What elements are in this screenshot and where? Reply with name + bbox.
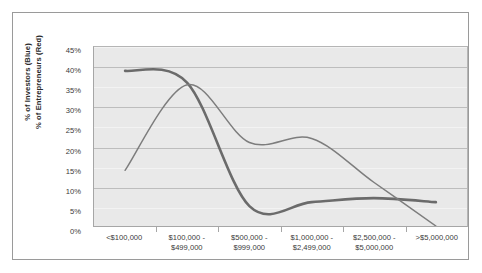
x-axis-tick (343, 227, 344, 232)
x-axis-category-label: $500,000 - $999,000 (218, 233, 281, 253)
y-axis-tick-label: 15% (55, 167, 81, 176)
y-axis-title: % of Investors (Blue) % of Entrepreneurs… (23, 7, 49, 157)
x-axis-category-label: $2,500,000 - $5,000,000 (343, 233, 406, 253)
series-line (125, 85, 436, 226)
y-axis-tick-label: 45% (55, 46, 81, 55)
series-lines (94, 47, 467, 226)
y-axis-tick-label: 5% (55, 207, 81, 216)
x-axis-category-label: >$5,000,000 (406, 233, 469, 243)
y-axis-tick-label: 25% (55, 126, 81, 135)
y-axis-tick-labels: 0%5%10%15%20%25%30%35%40%45% (55, 40, 81, 216)
x-axis-tick (281, 227, 282, 232)
chart-frame: % of Investors (Blue) % of Entrepreneurs… (12, 12, 469, 260)
y-axis-tick-label: 20% (55, 147, 81, 156)
x-axis-category-labels: <$100,000$100,000 - $499,000$500,000 - $… (93, 233, 468, 261)
y-axis-title-line-1: % of Investors (Blue) (23, 7, 34, 157)
y-axis-tick-label: 30% (55, 106, 81, 115)
x-axis-category-label: $1,000,000 - $2,499,000 (281, 233, 344, 253)
y-axis-tick-label: 0% (55, 227, 81, 236)
x-axis-category-label: $100,000 - $499,000 (156, 233, 219, 253)
y-axis-title-line-2: % of Entrepreneurs (Red) (34, 7, 45, 157)
x-axis-tick (156, 227, 157, 232)
x-axis-ticks (93, 227, 468, 232)
plot-area (93, 46, 468, 227)
x-axis-tick (218, 227, 219, 232)
y-axis-tick-label: 10% (55, 187, 81, 196)
y-axis-tick-label: 35% (55, 86, 81, 95)
y-axis-tick-label: 40% (55, 66, 81, 75)
x-axis-category-label: <$100,000 (93, 233, 156, 243)
x-axis-tick (406, 227, 407, 232)
